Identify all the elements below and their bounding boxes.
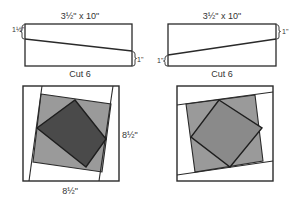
strip-right-offset-right: 1" bbox=[282, 28, 289, 35]
strip-left-dimension: 3½" x 10" bbox=[61, 11, 99, 21]
strip-left: 3½" x 10" 1½" 1" Cut 6 bbox=[12, 11, 144, 79]
strip-left-cut-label: Cut 6 bbox=[69, 69, 91, 79]
strip-left-offset-right: 1" bbox=[137, 56, 144, 63]
strip-right-offset-left: 1" bbox=[157, 57, 164, 64]
bracket-right-icon bbox=[277, 25, 281, 40]
strip-right: 3½" x 10" 1" 1" Cut 6 bbox=[157, 11, 289, 79]
block-left-width-label: 8½" bbox=[62, 186, 78, 196]
block-left: 8½" 8½" bbox=[23, 86, 138, 196]
strip-right-rect bbox=[168, 24, 276, 66]
quilt-diagram: 3½" x 10" 1½" 1" Cut 6 3½" x 10" 1" 1" C… bbox=[0, 0, 300, 201]
bracket-right-icon bbox=[133, 52, 137, 67]
bracket-left-icon bbox=[164, 56, 168, 67]
strip-left-offset-left: 1½" bbox=[12, 26, 25, 33]
block-right bbox=[177, 86, 273, 181]
block-left-height-label: 8½" bbox=[122, 130, 138, 140]
strip-right-dimension: 3½" x 10" bbox=[203, 11, 241, 21]
strip-right-cut-label: Cut 6 bbox=[211, 69, 233, 79]
